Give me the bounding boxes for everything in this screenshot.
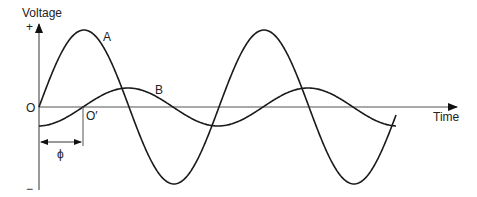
origin-label: O (26, 101, 35, 115)
curve-a-label: A (103, 30, 111, 44)
phase-arrowhead-right (74, 139, 82, 145)
shifted-origin-label: O′ (86, 109, 98, 123)
y-axis-label: Voltage (22, 6, 62, 20)
curve-b-label: B (155, 83, 163, 97)
phase-label: ϕ (57, 147, 64, 161)
phase-arrowhead-left (40, 139, 48, 145)
x-axis-label: Time (433, 110, 460, 124)
minus-sign: − (26, 182, 33, 196)
plus-sign: + (26, 20, 33, 34)
phase-diagram: Voltage + − O O′ ϕ A B Time (0, 0, 477, 197)
